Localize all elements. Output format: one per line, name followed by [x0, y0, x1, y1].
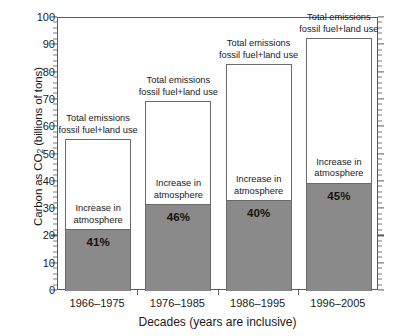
- bar-percent-label: 45%: [279, 190, 396, 202]
- y-tick-minor-right: [378, 82, 382, 83]
- y-tick-minor-right: [378, 77, 382, 78]
- bar-total-label-line1: Total emissions: [199, 38, 319, 50]
- y-tick-minor-right: [378, 142, 382, 143]
- bar-total-caption: Total emissionsfossil fuel+land use: [118, 75, 238, 98]
- bar-total-caption: Total emissionsfossil fuel+land use: [199, 38, 319, 61]
- y-tick-minor-right: [378, 60, 382, 61]
- x-axis-title: Decades (years are inclusive): [57, 315, 378, 329]
- y-tick-major-right: [378, 235, 384, 236]
- y-tick-major-right: [378, 44, 384, 45]
- bar-total-label-line2: fossil fuel+land use: [118, 87, 238, 99]
- y-tick-minor-right: [378, 66, 382, 67]
- y-tick-major-right: [378, 180, 384, 181]
- y-tick-minor-right: [378, 109, 382, 110]
- y-tick-minor-right: [378, 120, 382, 121]
- y-tick-minor-right: [378, 251, 382, 252]
- plot-area: Total emissionsfossil fuel+land useIncre…: [57, 17, 378, 290]
- y-tick-label: 40: [25, 175, 55, 187]
- x-tick-label: 1996–2005: [283, 297, 393, 309]
- y-tick-minor-right: [378, 268, 382, 269]
- y-axis-title-suffix: (billions of tons): [32, 67, 44, 149]
- y-tick-minor-right: [378, 186, 382, 187]
- bar-total-label-line2: fossil fuel+land use: [38, 125, 158, 137]
- y-tick-label: 90: [25, 38, 55, 50]
- y-tick-minor-right: [378, 279, 382, 280]
- y-tick-major-right: [378, 71, 384, 72]
- y-tick-minor-right: [378, 229, 382, 230]
- y-tick-minor-right: [378, 55, 382, 56]
- bar-total-label-line1: Total emissions: [118, 75, 238, 87]
- bar-total-label-line2: fossil fuel+land use: [199, 50, 319, 62]
- y-tick-label: 80: [25, 66, 55, 78]
- y-tick-minor-right: [378, 137, 382, 138]
- y-tick-minor-right: [378, 38, 382, 39]
- y-tick-minor-right: [378, 104, 382, 105]
- y-tick-major-right: [378, 126, 384, 127]
- y-tick-minor-right: [378, 202, 382, 203]
- bar-percent-label: 41%: [38, 236, 158, 248]
- x-tick-mark: [218, 290, 219, 295]
- bar-total-label-line1: Total emissions: [38, 113, 158, 125]
- y-tick-minor-right: [378, 148, 382, 149]
- y-tick-minor-right: [378, 213, 382, 214]
- carbon-emissions-bar-chart: Carbon as CO2 (billions of tons) 0102030…: [0, 0, 396, 336]
- y-tick-minor-right: [378, 284, 382, 285]
- y-tick-major-right: [378, 262, 384, 263]
- y-tick-major-right: [378, 208, 384, 209]
- bar-increase-caption: Increase inatmosphere: [279, 157, 396, 180]
- y-tick-label: 50: [25, 148, 55, 160]
- y-tick-minor-right: [378, 115, 382, 116]
- y-tick-minor-right: [378, 49, 382, 50]
- y-tick-minor-right: [378, 257, 382, 258]
- y-tick-minor-right: [378, 224, 382, 225]
- bar-total-label-line1: Total emissions: [279, 12, 396, 24]
- y-tick-major-right: [378, 98, 384, 99]
- bar-total-caption: Total emissionsfossil fuel+land use: [279, 12, 396, 35]
- bar-total-caption: Total emissionsfossil fuel+land use: [38, 113, 158, 136]
- y-tick-label: 10: [25, 257, 55, 269]
- y-tick-label: 100: [25, 11, 55, 23]
- y-tick-minor-right: [378, 246, 382, 247]
- y-tick-major-right: [378, 153, 384, 154]
- y-tick-major-right: [378, 289, 384, 290]
- y-tick-minor-right: [378, 131, 382, 132]
- x-tick-mark: [298, 290, 299, 295]
- bar-increase-label-line1: Increase in: [279, 157, 396, 169]
- bar-total-label-line2: fossil fuel+land use: [279, 24, 396, 36]
- y-tick-label: 0: [25, 284, 55, 296]
- y-tick-minor-right: [378, 87, 382, 88]
- y-tick-minor-right: [378, 273, 382, 274]
- bar-increase-label-line2: atmosphere: [279, 168, 396, 180]
- y-tick-minor-right: [378, 240, 382, 241]
- x-tick-mark: [137, 290, 138, 295]
- y-tick-label: 70: [25, 93, 55, 105]
- y-tick-minor-right: [378, 219, 382, 220]
- y-tick-minor-right: [378, 93, 382, 94]
- bar-percent-label: 40%: [199, 207, 319, 219]
